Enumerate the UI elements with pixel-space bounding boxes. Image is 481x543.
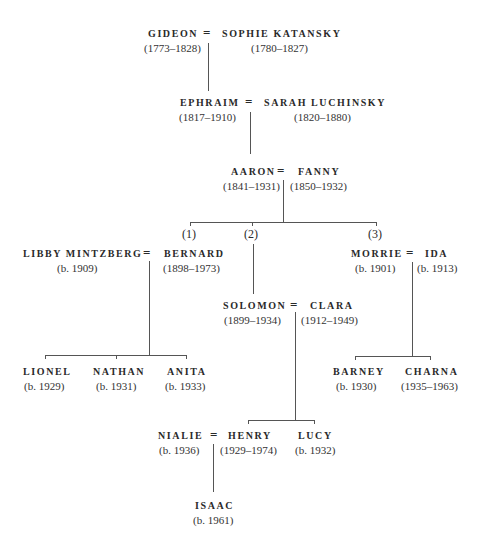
person-aaron-name: AARON [231,166,276,177]
person-sophie-name: SOPHIE KATANSKY [222,28,341,39]
person-solomon-dates: (1899–1934) [224,314,281,326]
descent-line [253,244,254,294]
sibling-bar [190,222,377,223]
descent-line [412,262,413,356]
branch-tick [116,355,117,359]
person-bernard-dates: (1898–1973) [163,262,220,274]
person-isaac-name: ISAAC [195,500,234,511]
sibling-bar [355,356,431,357]
descent-line [149,261,150,355]
person-anita-name: ANITA [167,366,206,377]
person-nialie-dates: (b. 1936) [159,444,199,456]
person-aaron-dates: (1841–1931) [223,180,280,192]
branch-label-3: (3) [368,227,382,242]
person-anita-dates: (b. 1933) [165,380,205,392]
person-gideon-name: GIDEON [148,28,198,39]
descent-line [250,112,251,154]
descent-line [295,312,296,420]
descent-line [283,180,284,222]
person-lucy-dates: (b. 1932) [295,444,335,456]
person-henry-dates: (1929–1974) [220,444,277,456]
person-libby-dates: (b. 1909) [57,262,97,274]
person-bernard-name: BERNARD [164,248,225,259]
person-lionel-name: LIONEL [23,366,72,377]
person-fanny-name: FANNY [298,166,340,177]
person-fanny-dates: (1850–1932) [290,180,347,192]
person-barney-dates: (b. 1930) [336,380,376,392]
marriage-symbol: = [143,245,150,261]
sibling-bar [248,420,315,421]
person-clara-dates: (1912–1949) [301,314,358,326]
person-clara-name: CLARA [310,300,354,311]
person-nathan-dates: (b. 1931) [96,380,136,392]
branch-tick [248,420,249,424]
person-henry-name: HENRY [228,430,272,441]
branch-tick [45,355,46,359]
person-isaac-dates: (b. 1961) [193,514,233,526]
person-sarah-dates: (1820–1880) [294,111,351,123]
branch-tick [190,222,191,226]
branch-tick [355,356,356,360]
branch-tick [376,222,377,226]
person-ida-dates: (b. 1913) [417,262,457,274]
branch-tick [314,420,315,424]
person-nialie-name: NIALIE [158,430,203,441]
marriage-symbol: = [210,427,217,443]
person-ephraim-dates: (1817–1910) [179,111,236,123]
marriage-symbol: = [277,163,284,179]
branch-tick [252,222,253,226]
person-ida-name: IDA [425,248,448,259]
branch-label-1: (1) [182,227,196,242]
person-morrie-name: MORRIE [351,248,403,259]
person-barney-name: BARNEY [333,366,385,377]
branch-tick [186,355,187,359]
person-ephraim-name: EPHRAIM [180,97,240,108]
person-charna-name: CHARNA [405,366,459,377]
person-sarah-name: SARAH LUCHINSKY [264,97,386,108]
person-libby-name: LIBBY MINTZBERG [23,248,142,259]
descent-line [213,444,214,492]
person-charna-dates: (1935–1963) [401,380,458,392]
person-solomon-name: SOLOMON [223,300,286,311]
person-gideon-dates: (1773–1828) [144,42,201,54]
person-nathan-name: NATHAN [93,366,145,377]
person-sophie-dates: (1780–1827) [251,42,308,54]
person-lionel-dates: (b. 1929) [24,380,64,392]
marriage-symbol: = [203,25,210,41]
branch-label-2: (2) [244,227,258,242]
marriage-symbol: = [290,297,297,313]
person-lucy-name: LUCY [298,430,333,441]
descent-line [208,43,209,91]
person-morrie-dates: (b. 1901) [355,262,395,274]
marriage-symbol: = [406,245,413,261]
marriage-symbol: = [245,94,252,110]
branch-tick [430,356,431,360]
